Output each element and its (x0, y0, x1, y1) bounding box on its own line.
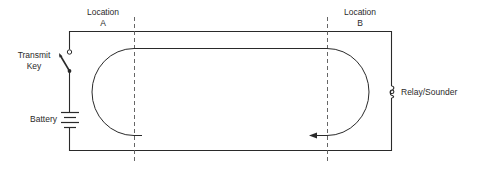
battery-label: Battery (10, 114, 57, 125)
battery-icon (61, 113, 79, 128)
transmit-key-label-line2: Key (12, 61, 56, 72)
location-b-label: Location B (335, 7, 385, 29)
transmit-key-label: Transmit Key (12, 50, 56, 72)
telegraph-circuit-diagram: Location A Location B Transmit Key Batte… (0, 0, 477, 172)
relay-sounder-label: Relay/Sounder (401, 87, 457, 98)
circuit-drawing (0, 0, 477, 172)
transmit-key-icon (59, 50, 72, 73)
relay-coil-icon (390, 86, 394, 98)
location-a-name: Location (78, 7, 128, 18)
location-boundaries (135, 17, 328, 164)
location-b-letter: B (335, 18, 385, 29)
arrowhead-icon (309, 133, 317, 139)
location-b-name: Location (335, 7, 385, 18)
location-a-letter: A (78, 18, 128, 29)
location-a-label: Location A (78, 7, 128, 29)
transmit-key-label-line1: Transmit (12, 50, 56, 61)
